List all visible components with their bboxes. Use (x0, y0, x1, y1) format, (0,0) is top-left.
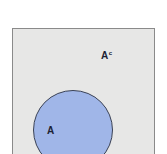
complement-label-superscript: c (109, 50, 112, 56)
complement-label: Ac (101, 51, 112, 61)
set-a-label: A (47, 126, 54, 136)
complement-label-base: A (101, 50, 108, 61)
